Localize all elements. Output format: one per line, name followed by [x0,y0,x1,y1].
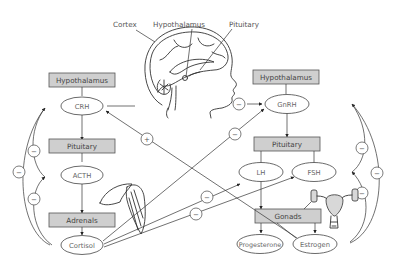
cortex-label: Cortex [113,20,137,29]
acth-to-crh-feedback-arc [33,108,45,177]
progesterone-label: Progesterone [239,241,281,249]
svg-text:−: − [31,148,37,156]
right-hypothalamus-label: Hypothalamus [260,73,312,82]
adrenals-label: Adrenals [66,216,98,225]
left-hypothalamus-label: Hypothalamus [56,76,108,85]
hypothalamus-pointer [186,29,192,77]
svg-text:+: + [144,136,150,144]
pituitary-anatomy-label: Pituitary [229,20,260,29]
cortisol-to-crh-feedback-arc [23,108,50,245]
right-pituitary-label: Pituitary [272,140,303,149]
estrogen-to-fsh-feedback-arc [350,172,366,242]
cortex-pointer [136,30,155,42]
svg-text:−: − [204,194,210,202]
gnrh-label: GnRH [277,101,296,109]
acth-label: ACTH [73,172,92,180]
left-hpa-axis: Hypothalamus CRH Pituitary ACTH Adrenals… [13,73,135,255]
fsh-label: FSH [307,169,320,177]
gonads-label: Gonads [274,212,301,221]
svg-text:−: − [359,190,365,198]
cortisol-label: Cortisol [69,242,95,250]
lh-label: LH [257,169,266,177]
hpa-hpg-axis-diagram: Cortex Hypothalamus Pituitary Hypothalam… [0,0,400,269]
left-pituitary-label: Pituitary [67,142,98,151]
hypothalamus-anatomy-label: Hypothalamus [153,20,205,29]
svg-text:−: − [31,196,37,204]
fsh-to-gnrh-feedback-arc [352,104,365,172]
svg-text:−: − [236,101,242,109]
crh-label: CRH [75,103,90,111]
svg-text:−: − [232,131,238,139]
pituitary-pointer [200,29,232,70]
cortisol-to-acth-feedback-arc [34,177,52,245]
svg-text:−: − [193,211,199,219]
svg-text:−: − [374,170,380,178]
cortisol-to-lh-inhibition [104,184,240,244]
right-hpg-axis: Hypothalamus GnRH Pituitary LH FSH Gonad… [233,70,383,254]
svg-text:−: − [16,169,22,177]
estrogen-label: Estrogen [300,241,330,249]
svg-text:−: − [359,145,365,153]
